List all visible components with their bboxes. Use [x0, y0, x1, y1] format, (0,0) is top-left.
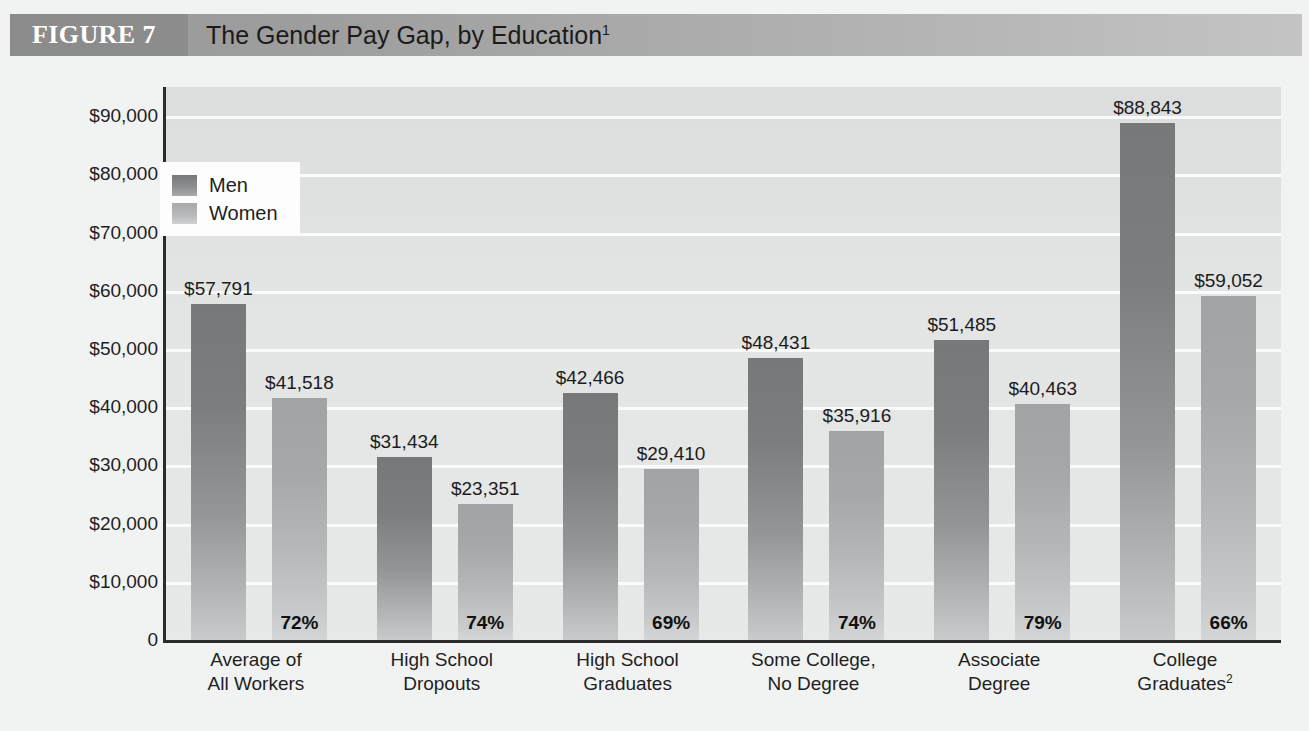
gridline-80000: [166, 174, 1281, 177]
x-axis-label-line2-text-4: Degree: [968, 673, 1030, 694]
x-axis-label-line1-2: High School: [535, 648, 721, 672]
x-axis-label-line2-3: No Degree: [721, 672, 907, 696]
y-axis-tick-10000: $10,000: [60, 571, 158, 593]
bar-men-3[interactable]: $48,431: [748, 358, 803, 640]
figure-title-footnote: 1: [602, 21, 610, 37]
gridline-20000: [166, 524, 1281, 527]
x-axis-label-5: CollegeGraduates2: [1092, 648, 1278, 697]
gridline-30000: [166, 465, 1281, 468]
ratio-label-0: 72%: [280, 612, 318, 634]
bar-value-men-1: $31,434: [370, 431, 439, 453]
x-axis-category-labels: Average ofAll WorkersHigh SchoolDropouts…: [163, 648, 1281, 728]
x-axis-label-line2-text-5: Graduates: [1137, 674, 1226, 695]
x-axis-label-line2-0: All Workers: [163, 672, 349, 696]
gridline-10000: [166, 582, 1281, 585]
ratio-label-4: 79%: [1024, 612, 1062, 634]
y-axis-tick-80000: $80,000: [60, 163, 158, 185]
bar-men-2[interactable]: $42,466: [563, 393, 618, 640]
bar-women-2[interactable]: $29,41069%: [644, 469, 699, 640]
x-axis-label-line2-text-1: Dropouts: [403, 673, 480, 694]
y-axis-tick-60000: $60,000: [60, 280, 158, 302]
figure-title: The Gender Pay Gap, by Education1: [188, 21, 610, 50]
figure-header: FIGURE 7 The Gender Pay Gap, by Educatio…: [10, 14, 1302, 56]
y-axis-tick-50000: $50,000: [60, 338, 158, 360]
legend-swatch-women-icon: [172, 203, 197, 224]
x-axis-label-4: AssociateDegree: [906, 648, 1092, 697]
x-axis-label-line1-5: College: [1092, 648, 1278, 672]
y-axis-tick-70000: $70,000: [60, 222, 158, 244]
figure-container: FIGURE 7 The Gender Pay Gap, by Educatio…: [0, 0, 1309, 731]
plot-inner: $57,791$41,51872%$31,434$23,35174%$42,46…: [166, 87, 1281, 640]
x-axis-label-line1-3: Some College,: [721, 648, 907, 672]
legend-swatch-men-icon: [172, 175, 197, 196]
x-axis-label-line2-5: Graduates2: [1092, 672, 1278, 697]
y-axis-tick-40000: $40,000: [60, 396, 158, 418]
x-axis-label-line1-1: High School: [349, 648, 535, 672]
bar-men-5[interactable]: $88,843: [1120, 123, 1175, 640]
bar-value-men-2: $42,466: [556, 367, 625, 389]
legend-item-women: Women: [172, 199, 278, 227]
x-axis-label-line2-text-2: Graduates: [583, 673, 672, 694]
gridline-70000: [166, 233, 1281, 236]
bar-value-men-4: $51,485: [927, 314, 996, 336]
legend-label-women: Women: [209, 202, 278, 225]
plot-area: $57,791$41,51872%$31,434$23,35174%$42,46…: [163, 87, 1281, 643]
x-axis-label-1: High SchoolDropouts: [349, 648, 535, 697]
gridline-60000: [166, 291, 1281, 294]
bar-value-women-0: $41,518: [265, 372, 334, 394]
bar-value-women-5: $59,052: [1194, 270, 1263, 292]
y-axis-tick-labels: $90,000$80,000$70,000$60,000$50,000$40,0…: [60, 62, 158, 662]
y-axis-tick-30000: $30,000: [60, 454, 158, 476]
ratio-label-5: 66%: [1210, 612, 1248, 634]
bar-women-1[interactable]: $23,35174%: [458, 504, 513, 640]
bar-value-women-4: $40,463: [1008, 378, 1077, 400]
legend-label-men: Men: [209, 174, 248, 197]
ratio-label-2: 69%: [652, 612, 690, 634]
chart-region: Earnings per year $90,000$80,000$70,000$…: [0, 62, 1309, 731]
x-axis-label-line2-2: Graduates: [535, 672, 721, 696]
x-axis-label-line2-1: Dropouts: [349, 672, 535, 696]
bar-value-men-3: $48,431: [742, 332, 811, 354]
bar-women-5[interactable]: $59,05266%: [1201, 296, 1256, 640]
y-axis-tick-20000: $20,000: [60, 513, 158, 535]
x-axis-label-line2-text-3: No Degree: [767, 673, 859, 694]
bar-value-women-3: $35,916: [823, 405, 892, 427]
x-axis-label-line1-4: Associate: [906, 648, 1092, 672]
gridline-40000: [166, 407, 1281, 410]
bar-men-1[interactable]: $31,434: [377, 457, 432, 640]
x-axis-label-line1-0: Average of: [163, 648, 349, 672]
bar-value-men-0: $57,791: [184, 278, 253, 300]
chart-legend: Men Women: [160, 162, 300, 236]
figure-title-text: The Gender Pay Gap, by Education: [206, 21, 602, 49]
x-axis-label-line2-text-0: All Workers: [208, 673, 305, 694]
legend-item-men: Men: [172, 171, 278, 199]
bar-value-men-5: $88,843: [1113, 97, 1182, 119]
x-axis-label-line2-4: Degree: [906, 672, 1092, 696]
y-axis-tick-90000: $90,000: [60, 105, 158, 127]
ratio-label-3: 74%: [838, 612, 876, 634]
ratio-label-1: 74%: [466, 612, 504, 634]
bar-women-4[interactable]: $40,46379%: [1015, 404, 1070, 640]
bar-women-0[interactable]: $41,51872%: [272, 398, 327, 640]
figure-number-badge: FIGURE 7: [10, 14, 188, 56]
x-axis-label-2: High SchoolGraduates: [535, 648, 721, 697]
x-axis-label-3: Some College,No Degree: [721, 648, 907, 697]
bar-value-women-1: $23,351: [451, 478, 520, 500]
bar-value-women-2: $29,410: [637, 443, 706, 465]
bar-men-0[interactable]: $57,791: [191, 304, 246, 640]
y-axis-tick-0: 0: [60, 629, 158, 651]
bar-women-3[interactable]: $35,91674%: [829, 431, 884, 640]
x-axis-label-0: Average ofAll Workers: [163, 648, 349, 697]
x-axis-label-footnote-5: 2: [1226, 672, 1233, 686]
gridline-50000: [166, 349, 1281, 352]
bar-men-4[interactable]: $51,485: [934, 340, 989, 640]
